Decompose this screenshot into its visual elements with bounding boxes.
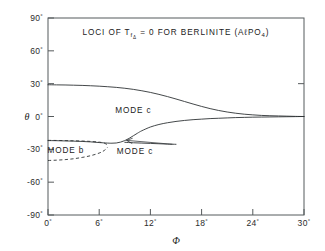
annotation-mode-c-upper: MODE c bbox=[115, 106, 151, 115]
annotation-mode-c-lower: MODE c bbox=[117, 147, 153, 156]
x-axis-title: Φ bbox=[172, 235, 180, 246]
canvas-background bbox=[0, 0, 325, 251]
chart-svg: 90° 60° 30° 0° -30° -60° -90° 0° 6° 12° … bbox=[0, 0, 325, 251]
y-axis-title: θ bbox=[25, 111, 30, 122]
figure-container: 90° 60° 30° 0° -30° -60° -90° 0° 6° 12° … bbox=[0, 0, 325, 251]
annotation-mode-b: MODE b bbox=[48, 146, 85, 155]
